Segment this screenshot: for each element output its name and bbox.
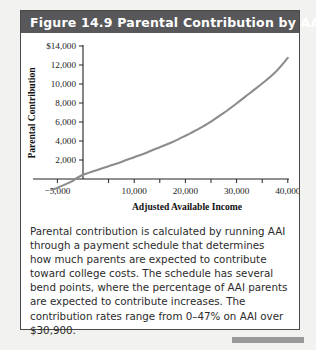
figure-title: Figure 14.9 Parental Contribution by AAI: [30, 15, 316, 30]
svg-text:$14,000: $14,000: [46, 41, 76, 51]
svg-text:12,000: 12,000: [51, 60, 77, 70]
x-axis-tick-labels: −5,00010,00020,00030,00040,000: [44, 186, 299, 196]
svg-text:4,000: 4,000: [55, 136, 76, 146]
svg-text:40,000: 40,000: [275, 186, 299, 196]
svg-text:20,000: 20,000: [173, 186, 199, 196]
x-axis-ticks: [57, 179, 287, 183]
contribution-curve: [52, 58, 288, 190]
chart-plot-area: $14,00012,00010,0008,0006,0004,0002,000 …: [21, 33, 299, 218]
svg-text:2,000: 2,000: [55, 155, 76, 165]
figure-caption: Parental contribution is calculated by r…: [30, 224, 288, 337]
y-axis-tick-labels: $14,00012,00010,0008,0006,0004,0002,000: [46, 41, 76, 165]
figure-header: Figure 14.9 Parental Contribution by AAI: [21, 11, 299, 33]
y-axis-title: Parental Contribution: [26, 67, 37, 159]
page-root: Figure 14.9 Parental Contribution by AAI…: [0, 0, 316, 350]
svg-text:10,000: 10,000: [51, 79, 77, 89]
figure-box: Figure 14.9 Parental Contribution by AAI…: [20, 10, 300, 330]
svg-text:6,000: 6,000: [55, 117, 76, 127]
svg-text:8,000: 8,000: [55, 98, 76, 108]
footer-accent-bar: [232, 337, 304, 343]
x-axis-title: Adjusted Available Income: [132, 201, 243, 212]
y-axis-ticks: [79, 46, 83, 160]
line-chart: $14,00012,00010,0008,0006,0004,0002,000 …: [21, 33, 299, 218]
svg-text:30,000: 30,000: [224, 186, 250, 196]
svg-text:10,000: 10,000: [122, 186, 148, 196]
